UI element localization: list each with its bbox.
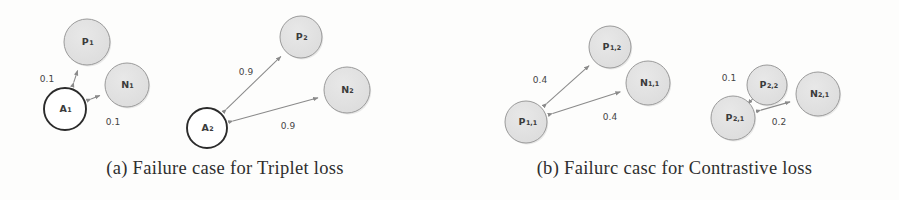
edge-label-A1-P1: 0.1: [40, 74, 54, 84]
node-subscript-A1: 1: [67, 106, 71, 114]
node-label-N11: N: [640, 77, 648, 88]
node-subscript-N2: 2: [349, 87, 353, 95]
node-subscript-P21: 2,1: [733, 115, 744, 123]
edge-label-A1-N1: 0.1: [106, 117, 120, 127]
node-P22: P2,2: [747, 65, 788, 106]
edge-label-P11-N11: 0.4: [603, 112, 618, 122]
node-label-P12: P: [602, 41, 609, 52]
panel-triplet-loss: 0.10.10.90.9A1P1N1A2P2N2 (a) Failure cas…: [0, 0, 450, 200]
triplet-loss-diagram: 0.10.10.90.9A1P1N1A2P2N2: [0, 0, 450, 160]
node-label-N1: N: [121, 79, 129, 90]
node-N11: N1,1: [626, 61, 671, 106]
node-label-N2: N: [341, 84, 349, 95]
node-label-P1: P: [82, 36, 89, 47]
edge-label-A2-P2: 0.9: [239, 67, 254, 77]
edge-A1-P1: [74, 71, 78, 83]
panel-b-caption: (b) Failurc casc for Contrastive loss: [450, 158, 899, 179]
edge-A2-N2: [233, 98, 318, 121]
node-P2: P2: [280, 16, 323, 59]
contrastive-loss-diagram: 0.40.40.10.2P1,1P1,2N1,1P2,1P2,2N2,1: [450, 0, 899, 160]
edge-P11-N11: [553, 92, 621, 114]
node-subscript-P11: 1,1: [526, 119, 537, 127]
node-N21: N2,1: [796, 72, 841, 117]
edge-label-A2-N2: 0.9: [281, 121, 296, 131]
node-subscript-P22: 2,2: [767, 82, 778, 90]
node-N2: N2: [324, 67, 371, 114]
edge-label-P21-P22: 0.1: [722, 73, 736, 83]
edge-P11-P12: [547, 66, 589, 104]
node-subscript-P2: 2: [303, 34, 307, 42]
node-P21: P2,1: [711, 96, 756, 141]
node-P11: P1,1: [505, 101, 548, 144]
figure-container: 0.10.10.90.9A1P1N1A2P2N2 (a) Failure cas…: [0, 0, 899, 200]
node-label-N21: N: [810, 88, 818, 99]
panel-contrastive-loss: 0.40.40.10.2P1,1P1,2N1,1P2,1P2,2N2,1 (b)…: [450, 0, 899, 200]
node-label-P2: P: [296, 31, 303, 42]
node-subscript-P1: 1: [89, 39, 93, 47]
panel-a-caption: (a) Failure case for Triplet loss: [0, 158, 450, 179]
edge-A1-N1: [91, 95, 100, 98]
edge-A2-P2: [226, 56, 280, 109]
node-subscript-P12: 1,2: [610, 44, 621, 52]
node-label-P22: P: [759, 79, 766, 90]
node-P1: P1: [64, 19, 111, 66]
node-subscript-N1: 1: [129, 82, 133, 90]
node-A2: A2: [187, 108, 227, 148]
node-label-P11: P: [518, 116, 525, 127]
node-P12: P1,2: [589, 26, 632, 69]
edge-label-P11-P12: 0.4: [533, 75, 548, 85]
node-subscript-N11: 1,1: [648, 80, 659, 88]
edge-label-P21-N21: 0.2: [772, 117, 786, 127]
node-label-P21: P: [725, 112, 732, 123]
node-subscript-N21: 2,1: [818, 91, 829, 99]
node-subscript-A2: 2: [209, 125, 213, 133]
node-N1: N1: [105, 63, 150, 108]
node-A1: A1: [44, 88, 86, 130]
